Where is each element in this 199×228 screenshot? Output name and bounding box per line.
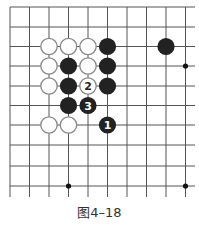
white-stone: 2 [80,78,96,94]
white-stone [41,38,57,54]
black-stone [99,38,116,55]
move-number-label: 1 [104,119,112,132]
black-stone [60,97,77,114]
white-stone [41,117,57,133]
black-stone: 1 [99,116,116,133]
star-point [66,183,71,188]
star-point [183,183,188,188]
white-stone [41,78,57,94]
go-board: 231 [0,0,199,200]
figure-caption: 图4–18 [0,202,199,221]
white-stone [80,38,96,54]
black-stone [60,77,77,94]
white-stone [60,117,76,133]
black-stone [157,38,174,55]
grid-lines [10,7,195,197]
black-stone [60,57,77,74]
white-stone [80,58,96,74]
black-stone [99,57,116,74]
white-stone [60,38,76,54]
black-stone: 3 [79,97,96,114]
white-stone [41,58,57,74]
move-number-label: 2 [84,80,92,93]
move-number-label: 3 [84,100,92,113]
star-point [183,63,188,68]
black-stone [99,77,116,94]
